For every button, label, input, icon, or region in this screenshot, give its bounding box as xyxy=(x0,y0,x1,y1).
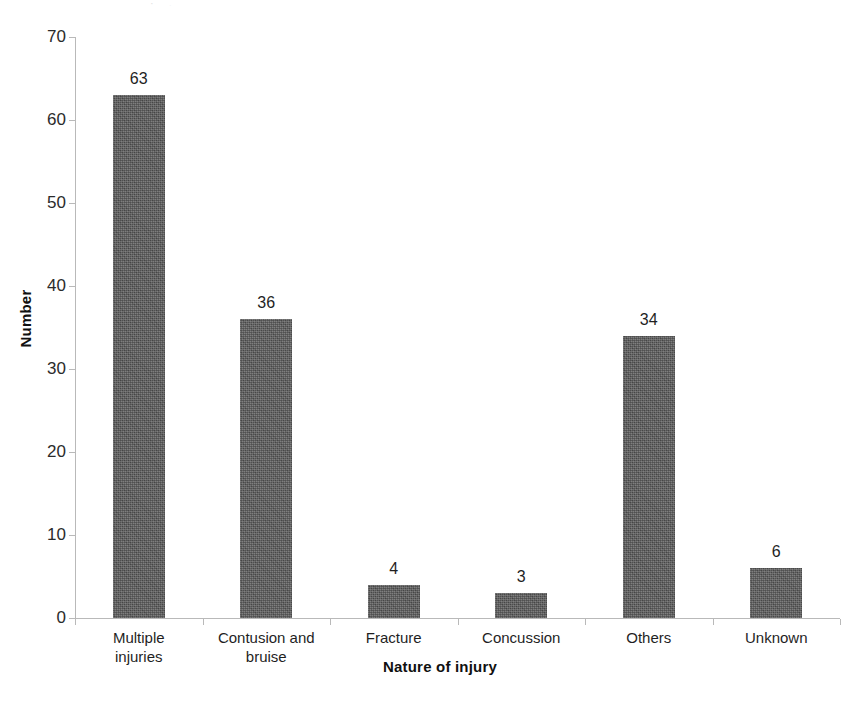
y-axis-line xyxy=(75,37,76,619)
y-axis-tick xyxy=(69,535,75,536)
x-axis-title: Nature of injury xyxy=(340,658,540,675)
x-axis-tick xyxy=(203,619,204,625)
bar-value-label: 4 xyxy=(334,561,454,577)
y-axis-tick xyxy=(69,37,75,38)
bar-value-label: 6 xyxy=(716,544,836,560)
y-axis-tick xyxy=(69,286,75,287)
y-axis-tick xyxy=(69,120,75,121)
x-axis-tick xyxy=(840,619,841,625)
bar-1[interactable] xyxy=(113,95,165,618)
bar-3[interactable] xyxy=(368,585,420,618)
x-axis-tick xyxy=(330,619,331,625)
scan-bleed-artifact: · , xyxy=(150,0,230,6)
bar-4[interactable] xyxy=(495,593,547,618)
x-axis-category-label: Concussion xyxy=(459,628,583,647)
bar-value-label: 36 xyxy=(206,295,326,311)
y-axis-tick xyxy=(69,452,75,453)
x-axis-category-label: Others xyxy=(587,628,711,647)
x-axis-tick xyxy=(585,619,586,625)
y-axis-tick-label: 70 xyxy=(20,28,66,45)
bar-2[interactable] xyxy=(240,319,292,618)
bar-value-label: 63 xyxy=(79,71,199,87)
bar-5[interactable] xyxy=(623,336,675,618)
y-axis-tick-label: 20 xyxy=(20,443,66,460)
bar-value-label: 34 xyxy=(589,312,709,328)
y-axis-tick-label: 50 xyxy=(20,194,66,211)
x-axis-category-label: Unknown xyxy=(714,628,838,647)
x-axis-category-label: Fracture xyxy=(332,628,456,647)
bar-value-label: 3 xyxy=(461,569,581,585)
x-axis-tick xyxy=(75,619,76,625)
y-axis-tick-label: 60 xyxy=(20,111,66,128)
y-axis-tick-label: 10 xyxy=(20,526,66,543)
bar-6[interactable] xyxy=(750,568,802,618)
x-axis-category-label: Contusion and bruise xyxy=(204,628,328,666)
bar-chart: · , 010203040506070 Number Nature of inj… xyxy=(0,0,862,702)
y-axis-tick xyxy=(69,203,75,204)
x-axis-category-label: Multiple injuries xyxy=(77,628,201,666)
y-axis-title: Number xyxy=(17,264,34,374)
x-axis-tick xyxy=(713,619,714,625)
y-axis-tick xyxy=(69,369,75,370)
x-axis-tick xyxy=(458,619,459,625)
y-axis-tick-label: 0 xyxy=(20,609,66,626)
